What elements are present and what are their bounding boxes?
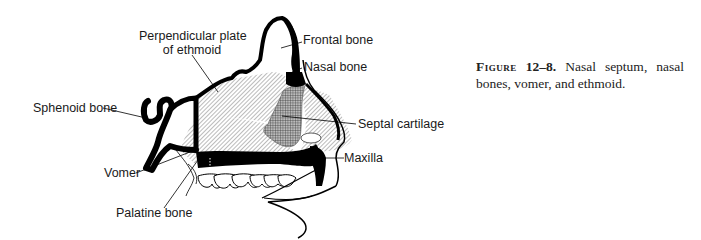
frontal-bone-shape	[282, 18, 300, 78]
label-vomer: Vomer	[104, 166, 140, 180]
nasal-septum-figure: Perpendicular plate of ethmoid Frontal b…	[0, 0, 701, 240]
label-maxilla: Maxilla	[344, 151, 383, 165]
label-sphenoid-bone: Sphenoid bone	[33, 101, 117, 115]
label-nasal-bone: Nasal bone	[304, 60, 367, 74]
label-frontal-bone: Frontal bone	[303, 33, 373, 47]
lip-outline	[268, 186, 336, 238]
nostril-shape	[301, 133, 321, 143]
caption-number: 12–8.	[526, 59, 556, 74]
caption-prefix: Figure	[476, 59, 517, 74]
maxilla-shape	[310, 146, 326, 186]
label-perpendicular-plate-line1: Perpendicular plate	[139, 29, 245, 43]
label-septal-cartilage: Septal cartilage	[358, 117, 444, 131]
label-palatine-bone: Palatine bone	[116, 206, 192, 220]
label-perpendicular-plate: Perpendicular plate of ethmoid	[139, 29, 245, 57]
label-perpendicular-plate-line2: of ethmoid	[139, 43, 245, 57]
teeth	[198, 174, 296, 188]
figure-caption: Figure 12–8. Nasal septum, nasal bones, …	[476, 58, 684, 92]
